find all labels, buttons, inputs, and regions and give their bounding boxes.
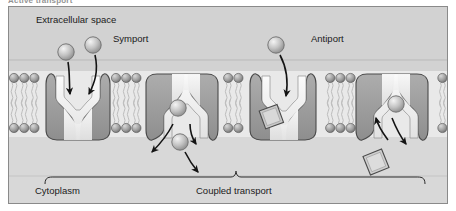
label-coupled-transport: Coupled transport <box>196 185 272 196</box>
phospholipid-head <box>234 73 243 82</box>
phospholipid-head <box>111 73 120 82</box>
label-extracellular-space: Extracellular space <box>36 14 116 25</box>
phospholipid-head <box>111 123 120 132</box>
solute-circle-cytoplasm-1[interactable] <box>172 134 188 150</box>
solute-circle-extracellular-2[interactable] <box>85 37 101 53</box>
phospholipid-head <box>30 123 39 132</box>
phospholipid-head <box>438 123 447 132</box>
phospholipid-head <box>9 123 18 132</box>
phospholipid-head <box>20 123 29 132</box>
figure-stage: Active transport <box>0 0 456 211</box>
phospholipid-head <box>20 73 29 82</box>
solute-circle-in-antiport-carrier[interactable] <box>388 96 404 112</box>
solute-circle-in-carrier[interactable] <box>170 100 186 116</box>
phospholipid-head <box>9 73 18 82</box>
phospholipid-head <box>234 123 243 132</box>
phospholipid-head <box>132 73 141 82</box>
phospholipid-head <box>122 123 131 132</box>
label-cytoplasm: Cytoplasm <box>35 185 80 196</box>
membrane-diagram-svg <box>0 0 456 211</box>
phospholipid-head <box>346 73 355 82</box>
phospholipid-head <box>224 73 233 82</box>
solute-circle-extracellular-3[interactable] <box>268 37 284 53</box>
phospholipid-head <box>438 73 447 82</box>
solute-circle-extracellular-1[interactable] <box>58 44 74 60</box>
phospholipid-head <box>30 73 39 82</box>
phospholipid-head <box>326 123 335 132</box>
phospholipid-head <box>326 73 335 82</box>
phospholipid-head <box>224 123 233 132</box>
phospholipid-head <box>132 123 141 132</box>
label-antiport: Antiport <box>311 33 344 44</box>
phospholipid-head <box>336 73 345 82</box>
label-symport: Symport <box>113 33 148 44</box>
phospholipid-head <box>346 123 355 132</box>
phospholipid-head <box>336 123 345 132</box>
phospholipid-head <box>122 73 131 82</box>
